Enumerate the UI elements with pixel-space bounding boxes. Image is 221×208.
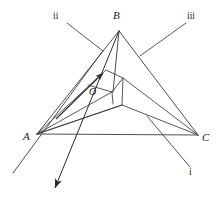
- figure-canvas: [0, 0, 221, 208]
- line-A-to-quad-corner: [37, 105, 122, 134]
- leader-line-iii: [140, 23, 186, 56]
- vertex-label-A: A: [23, 131, 30, 142]
- line-A-to-O-region: [37, 92, 112, 134]
- triangle-side-AB: [37, 31, 119, 134]
- leader-line-ii: [67, 23, 103, 51]
- geometry-figure: B A C O i ii iii: [0, 0, 221, 208]
- lower-right-edges: [122, 78, 198, 135]
- segment-B-to-O: [113, 31, 119, 92]
- reference-label-ii: ii: [53, 12, 58, 22]
- vertex-label-O: O: [89, 87, 96, 97]
- reference-line-ii: [13, 52, 102, 173]
- vertex-label-C: C: [202, 132, 209, 143]
- triangle-side-AC: [37, 134, 198, 135]
- reference-label-i: i: [189, 168, 192, 178]
- line-ii-upper-segment: [13, 52, 102, 173]
- edge-quad-to-C: [123, 78, 198, 135]
- vertex-label-B: B: [113, 10, 120, 21]
- reference-label-iii: iii: [187, 12, 195, 22]
